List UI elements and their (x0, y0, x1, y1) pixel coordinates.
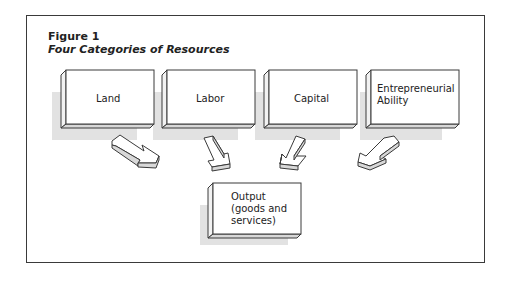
resource-label-line1: Entrepreneurial (377, 83, 455, 94)
resource-box-labor: Labor (161, 69, 257, 129)
figure-title: Four Categories of Resources (48, 43, 229, 56)
arrow-down-right-icon (108, 132, 164, 176)
output-label-line3: services) (231, 215, 276, 226)
resource-label: Labor (196, 93, 224, 104)
output-box: Output (goods and services) (207, 182, 303, 240)
resource-label: Land (96, 93, 120, 104)
output-label-line2: (goods and (231, 203, 287, 214)
resource-box-entrepreneurial-ability: Entrepreneurial Ability (365, 69, 461, 129)
figure-number: Figure 1 (48, 30, 99, 43)
arrow-down-left-icon (352, 134, 408, 178)
resource-label: Capital (294, 93, 329, 104)
resource-box-capital: Capital (263, 69, 359, 129)
resource-label-line2: Ability (377, 95, 408, 106)
arrow-down-left-icon (274, 134, 320, 178)
output-label-line1: Output (231, 191, 266, 202)
arrow-down-right-icon (196, 134, 242, 178)
resource-box-land: Land (60, 69, 156, 129)
